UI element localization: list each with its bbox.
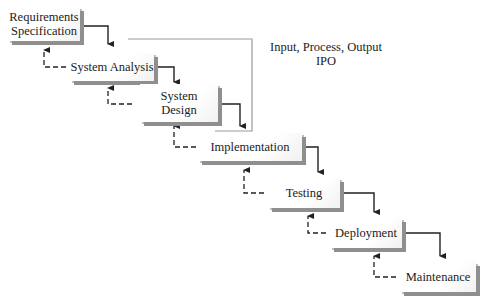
stage-deployment: Deployment xyxy=(330,218,402,248)
stage-system-analysis: System Analysis xyxy=(70,53,154,81)
stage-label: Maintenance xyxy=(406,270,471,284)
arrow-testing-to-deploy xyxy=(342,193,374,212)
arrow-deploy-to-maint xyxy=(404,233,440,256)
stage-implementation: Implementation xyxy=(198,133,302,161)
feedback-testing-to-impl xyxy=(244,170,264,193)
waterfall-diagram: Requirements Specification System Analys… xyxy=(0,0,490,303)
feedback-analysis-to-req xyxy=(44,50,66,67)
stage-label: Implementation xyxy=(210,140,289,154)
stage-requirements-specification: Requirements Specification xyxy=(8,7,80,41)
arrow-req-to-analysis xyxy=(82,26,108,44)
ipo-annotation: Input, Process, Output IPO xyxy=(256,40,396,68)
stage-maintenance: Maintenance xyxy=(400,262,476,292)
stage-label-line: Requirements xyxy=(9,10,78,24)
stage-label: Testing xyxy=(286,186,323,200)
stage-label-line: Specification xyxy=(9,24,78,38)
stage-testing: Testing xyxy=(268,178,340,208)
feedback-deploy-to-testing xyxy=(308,216,326,233)
ipo-annotation-line2: IPO xyxy=(256,54,396,68)
arrow-impl-to-testing xyxy=(304,147,318,172)
stage-label: System Analysis xyxy=(71,60,154,74)
stage-label: Deployment xyxy=(335,226,397,240)
feedback-maint-to-deploy xyxy=(374,256,396,277)
stage-system-design: System Design xyxy=(140,84,218,122)
stage-label-line: System xyxy=(161,89,198,103)
arrow-analysis-to-design xyxy=(156,67,174,82)
feedback-impl-to-design xyxy=(174,126,196,147)
feedback-design-to-analysis xyxy=(108,88,132,104)
ipo-annotation-line1: Input, Process, Output xyxy=(256,40,396,54)
stage-label-line: Design xyxy=(161,103,198,117)
arrow-design-to-impl xyxy=(220,104,240,126)
